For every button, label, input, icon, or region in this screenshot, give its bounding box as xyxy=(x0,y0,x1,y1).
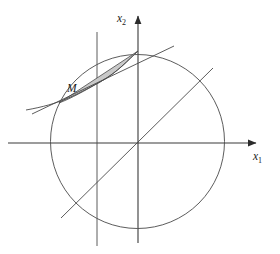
x2-axis-label-subscript: 2 xyxy=(122,18,126,27)
x2-axis-label: x2 xyxy=(116,12,126,27)
x1-axis-label: x1 xyxy=(252,150,262,165)
s-shaped-curve xyxy=(26,51,138,110)
x1-axis-label-subscript: 1 xyxy=(258,156,262,165)
region-label-M: M xyxy=(66,82,78,94)
math-diagram: M x2 x1 xyxy=(0,0,280,254)
figure-container: M x2 x1 xyxy=(0,0,280,254)
